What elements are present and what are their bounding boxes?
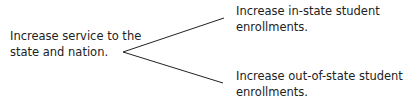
child-1-line-1: Increase in-state student <box>236 3 380 19</box>
child-1-line-2: enrollments. <box>236 19 380 35</box>
root-node: Increase service to the state and nation… <box>10 28 141 60</box>
child-node-outofstate: Increase out-of-state student enrollment… <box>236 68 403 100</box>
child-node-instate: Increase in-state student enrollments. <box>236 3 380 35</box>
root-line-1: Increase service to the <box>10 28 141 44</box>
root-line-2: state and nation. <box>10 44 141 60</box>
child-2-line-2: enrollments. <box>236 84 403 100</box>
child-2-line-1: Increase out-of-state student <box>236 68 403 84</box>
